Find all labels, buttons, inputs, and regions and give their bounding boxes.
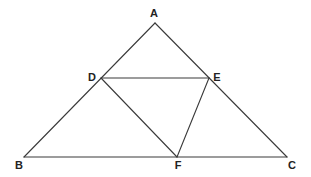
segment-ab bbox=[24, 23, 155, 157]
segments bbox=[24, 23, 287, 157]
label-b: B bbox=[15, 159, 23, 171]
segment-df bbox=[101, 78, 177, 157]
vertex-labels: A B C D E F bbox=[15, 7, 296, 171]
triangle-diagram: A B C D E F bbox=[0, 0, 311, 177]
label-d: D bbox=[88, 71, 96, 83]
label-a: A bbox=[150, 7, 158, 19]
label-c: C bbox=[288, 159, 296, 171]
label-e: E bbox=[213, 71, 220, 83]
segment-ef bbox=[177, 78, 209, 157]
label-f: F bbox=[175, 159, 182, 171]
segment-ac bbox=[155, 23, 287, 157]
